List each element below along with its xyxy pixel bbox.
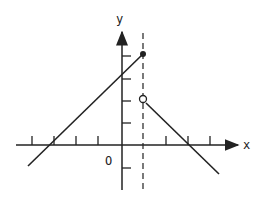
x-axis-label: x [243,138,250,152]
y-axis-label: y [116,12,123,26]
piecewise-function-graph: x y O [0,0,264,199]
left-line-segment [28,54,143,166]
x-ticks [32,136,210,145]
origin-label: O [105,154,112,168]
closed-endpoint [140,51,146,57]
right-line-segment [146,103,219,174]
open-endpoint [140,96,147,103]
